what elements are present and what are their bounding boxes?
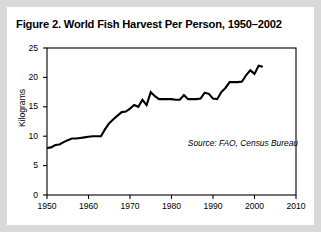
y-tick-label: 5 [18, 161, 38, 170]
y-axis-tick-marks [43, 48, 47, 195]
x-tick-label: 1990 [195, 202, 231, 211]
y-tick-label: 15 [18, 102, 38, 111]
y-tick-label: 25 [18, 44, 38, 53]
x-tick-label: 2010 [278, 202, 314, 211]
chart-area: Kilograms 2520151050 1950196019701980199… [7, 7, 314, 225]
x-tick-label: 1950 [29, 202, 65, 211]
y-tick-label: 0 [18, 191, 38, 200]
plot-frame [47, 48, 296, 195]
line-chart-plot [7, 7, 314, 225]
y-tick-label: 20 [18, 73, 38, 82]
x-tick-label: 1970 [112, 202, 148, 211]
x-tick-label: 2000 [237, 202, 273, 211]
x-axis-tick-marks [47, 195, 296, 199]
figure-card: Figure 2. World Fish Harvest Per Person,… [7, 7, 314, 225]
y-tick-label: 10 [18, 132, 38, 141]
source-note: Source: FAO, Census Bureau [188, 138, 298, 148]
x-tick-label: 1980 [154, 202, 190, 211]
x-tick-label: 1960 [71, 202, 107, 211]
